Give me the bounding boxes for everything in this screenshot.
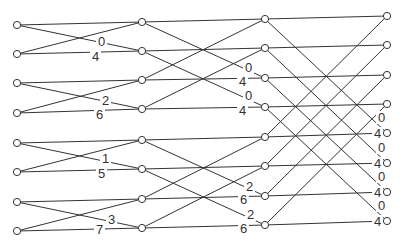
butterfly-cross-edge bbox=[17, 80, 142, 113]
butterfly-node-stage-2 bbox=[261, 74, 268, 81]
butterfly-node-stage-3 bbox=[383, 12, 390, 19]
butterfly-straight-edge bbox=[17, 228, 142, 231]
twiddle-factor-label: 0 bbox=[378, 110, 385, 125]
butterfly-straight-edge bbox=[17, 109, 142, 113]
butterfly-node-stage-0 bbox=[13, 198, 20, 205]
butterfly-cross-edge bbox=[17, 199, 142, 231]
butterfly-node-stage-0 bbox=[13, 109, 20, 116]
butterfly-node-stage-0 bbox=[13, 79, 20, 86]
butterfly-node-stage-2 bbox=[261, 103, 268, 110]
butterfly-straight-edge bbox=[142, 19, 265, 22]
twiddle-factor-label: 7 bbox=[96, 222, 103, 237]
twiddle-factor-label: 0 bbox=[378, 169, 385, 184]
butterfly-straight-edge bbox=[17, 140, 142, 143]
butterfly-straight-edge bbox=[265, 192, 387, 196]
butterfly-canvas: 042615370404262604040404 bbox=[0, 0, 405, 251]
butterfly-cross-edge bbox=[265, 104, 387, 225]
butterfly-straight-edge bbox=[142, 137, 265, 140]
twiddle-factor-label: 6 bbox=[240, 221, 247, 236]
butterfly-node-stage-3 bbox=[383, 100, 390, 107]
twiddle-factor-label: 3 bbox=[108, 212, 115, 227]
butterfly-node-stage-1 bbox=[138, 47, 145, 54]
twiddle-factor-label: 6 bbox=[240, 192, 247, 207]
twiddle-factor-label: 0 bbox=[98, 34, 105, 49]
butterfly-node-stage-1 bbox=[138, 105, 145, 112]
twiddle-factor-label: 0 bbox=[245, 88, 252, 103]
twiddle-factor-label: 6 bbox=[96, 107, 103, 122]
twiddle-factor-label: 0 bbox=[245, 60, 252, 75]
butterfly-node-stage-3 bbox=[383, 41, 390, 48]
butterfly-straight-edge bbox=[17, 80, 142, 83]
butterfly-straight-edge bbox=[17, 51, 142, 54]
butterfly-node-stage-0 bbox=[13, 168, 20, 175]
butterfly-cross-edge bbox=[265, 75, 387, 196]
butterfly-node-stage-1 bbox=[138, 18, 145, 25]
butterfly-node-stage-2 bbox=[261, 44, 268, 51]
twiddle-factor-label: 0 bbox=[378, 198, 385, 213]
butterfly-node-stage-2 bbox=[261, 162, 268, 169]
butterfly-straight-edge bbox=[142, 48, 265, 51]
twiddle-factor-label: 1 bbox=[102, 151, 109, 166]
butterfly-node-stage-2 bbox=[261, 192, 268, 199]
butterfly-node-stage-1 bbox=[138, 136, 145, 143]
butterfly-node-stage-1 bbox=[138, 195, 145, 202]
butterfly-node-stage-0 bbox=[13, 21, 20, 28]
butterfly-straight-edge bbox=[265, 45, 387, 48]
twiddle-factor-label: 2 bbox=[247, 207, 254, 222]
butterfly-straight-edge bbox=[265, 16, 387, 19]
twiddle-factor-label: 0 bbox=[378, 140, 385, 155]
twiddle-factor-label: 5 bbox=[98, 166, 105, 181]
fft-butterfly-diagram: 042615370404262604040404 bbox=[0, 0, 405, 251]
butterfly-nodes bbox=[13, 12, 390, 234]
butterfly-node-stage-3 bbox=[383, 188, 390, 195]
butterfly-cross-edge bbox=[17, 140, 142, 172]
butterfly-cross-edge bbox=[17, 22, 142, 54]
twiddle-labels: 042615370404262604040404 bbox=[92, 34, 385, 237]
butterfly-edges bbox=[17, 16, 387, 231]
butterfly-node-stage-3 bbox=[383, 159, 390, 166]
butterfly-node-stage-1 bbox=[138, 165, 145, 172]
butterfly-node-stage-2 bbox=[261, 221, 268, 228]
twiddle-factor-label: 4 bbox=[374, 126, 381, 141]
twiddle-factor-label: 4 bbox=[92, 49, 99, 64]
butterfly-node-stage-3 bbox=[383, 71, 390, 78]
label-gaps bbox=[90, 35, 387, 236]
butterfly-node-stage-1 bbox=[138, 76, 145, 83]
butterfly-straight-edge bbox=[17, 169, 142, 172]
twiddle-factor-label: 4 bbox=[239, 103, 246, 118]
twiddle-factor-label: 2 bbox=[102, 93, 109, 108]
butterfly-node-stage-1 bbox=[138, 224, 145, 231]
twiddle-factor-label: 4 bbox=[374, 214, 381, 229]
butterfly-straight-edge bbox=[265, 221, 387, 225]
butterfly-node-stage-3 bbox=[383, 129, 390, 136]
butterfly-node-stage-0 bbox=[13, 139, 20, 146]
butterfly-node-stage-0 bbox=[13, 50, 20, 57]
butterfly-straight-edge bbox=[17, 199, 142, 202]
butterfly-straight-edge bbox=[17, 22, 142, 25]
butterfly-node-stage-2 bbox=[261, 133, 268, 140]
butterfly-node-stage-3 bbox=[383, 217, 390, 224]
butterfly-node-stage-2 bbox=[261, 15, 268, 22]
twiddle-factor-label: 4 bbox=[239, 74, 246, 89]
butterfly-straight-edge bbox=[265, 104, 387, 107]
butterfly-node-stage-0 bbox=[13, 227, 20, 234]
